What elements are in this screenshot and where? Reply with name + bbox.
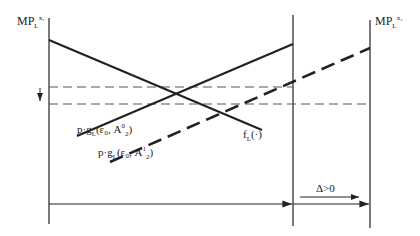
f-curve-label: fL(·): [243, 129, 262, 143]
left-axis-label: MPLx₁: [17, 15, 45, 30]
diagram-canvas: [0, 0, 420, 236]
pg-solid-label: p·gL(ε₀, A02): [77, 123, 132, 138]
right-axis-label: MPLx₂: [375, 15, 403, 30]
pg-dashed-label: p·gL(ε₀, A12): [98, 146, 153, 161]
delta-label: Δ>0: [316, 183, 335, 194]
f-curve: [49, 40, 262, 130]
